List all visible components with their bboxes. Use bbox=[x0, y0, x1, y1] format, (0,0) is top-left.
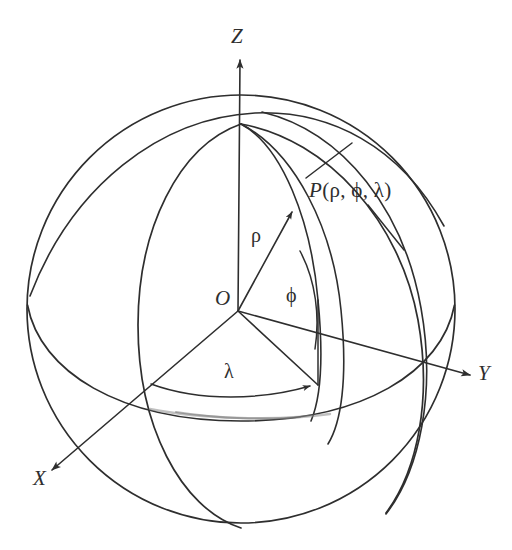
meridian-right-back bbox=[262, 112, 427, 514]
azimuth-angle-label-lambda: λ bbox=[224, 361, 234, 381]
axis-z-line bbox=[238, 60, 240, 311]
axis-label-x: X bbox=[33, 468, 46, 489]
equator-front-arc bbox=[28, 305, 455, 421]
point-p-letter: P bbox=[309, 178, 322, 202]
spherical-coordinates-diagram bbox=[0, 0, 512, 550]
axis-label-z: Z bbox=[231, 26, 243, 47]
point-p-label: P(ρ, ϕ, λ) bbox=[309, 180, 392, 201]
origin-label: O bbox=[215, 288, 230, 309]
figure-root: Z Y X O ρ ϕ λ P(ρ, ϕ, λ) bbox=[0, 0, 512, 550]
point-p-close-paren: ) bbox=[384, 178, 391, 202]
point-p-lambda: λ bbox=[374, 178, 384, 202]
equator-shadow-smudge-2 bbox=[176, 412, 300, 419]
radius-label-rho: ρ bbox=[251, 225, 261, 245]
radius-vector-rho bbox=[238, 212, 292, 311]
point-p-comma-2: , bbox=[363, 178, 374, 202]
angle-arc-lambda bbox=[151, 384, 310, 397]
meridian-front-left bbox=[138, 124, 241, 528]
point-p-comma-1: , bbox=[340, 178, 351, 202]
leader-line-p-upper bbox=[306, 143, 352, 178]
point-p-rho: ρ bbox=[329, 178, 340, 202]
axis-label-y: Y bbox=[478, 363, 490, 384]
polar-angle-label-phi: ϕ bbox=[286, 285, 297, 305]
point-p-phi: ϕ bbox=[351, 178, 362, 202]
